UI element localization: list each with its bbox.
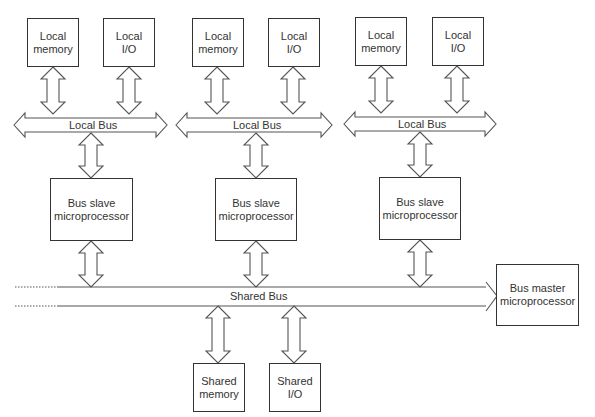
bus-master-box: Bus master microprocessor bbox=[496, 264, 579, 326]
local-memory-label: Local memory bbox=[28, 30, 78, 56]
local-memory-box-3: Local memory bbox=[355, 17, 407, 66]
shared-io-label: Shared I/O bbox=[275, 375, 315, 401]
local-io-box-3: Local I/O bbox=[432, 17, 484, 66]
arrow-shared-io bbox=[282, 306, 306, 363]
local-io-box-2: Local I/O bbox=[268, 18, 320, 67]
arrow-bus2-slave bbox=[244, 133, 268, 178]
shared-io-box: Shared I/O bbox=[269, 363, 321, 412]
shared-bus-label: Shared Bus bbox=[230, 290, 287, 302]
bus-slave-label: Bus slave microprocessor bbox=[383, 196, 458, 222]
bus-master-label: Bus master microprocessor bbox=[500, 282, 575, 308]
local-io-label: Local I/O bbox=[443, 29, 473, 55]
arrow-slave2-shared bbox=[244, 241, 268, 287]
local-io-box-1: Local I/O bbox=[103, 18, 155, 67]
arrow-io1-bus bbox=[117, 67, 141, 114]
shared-memory-box: Shared memory bbox=[193, 363, 245, 412]
bus-slave-box-3: Bus slave microprocessor bbox=[379, 177, 461, 240]
bus-slave-box-1: Bus slave microprocessor bbox=[50, 178, 133, 241]
arrow-shared-memory bbox=[206, 306, 230, 363]
arrow-bus3-slave bbox=[408, 132, 432, 177]
shared-memory-label: Shared memory bbox=[196, 375, 242, 401]
arrow-mem3-bus bbox=[369, 66, 393, 113]
local-memory-box-1: Local memory bbox=[27, 18, 79, 67]
bus-slave-box-2: Bus slave microprocessor bbox=[215, 178, 297, 241]
local-bus-label-2: Local Bus bbox=[233, 119, 281, 131]
local-io-label: Local I/O bbox=[279, 30, 309, 56]
arrow-slave3-shared bbox=[408, 240, 432, 287]
arrow-mem2-bus bbox=[205, 67, 229, 114]
arrow-slave1-shared bbox=[79, 241, 103, 287]
local-bus-label-1: Local Bus bbox=[69, 119, 117, 131]
arrow-mem1-bus bbox=[41, 67, 65, 114]
local-memory-label: Local memory bbox=[193, 30, 243, 56]
local-io-label: Local I/O bbox=[114, 30, 144, 56]
bus-slave-label: Bus slave microprocessor bbox=[54, 197, 129, 223]
local-memory-label: Local memory bbox=[356, 29, 406, 55]
arrow-bus1-slave bbox=[79, 133, 103, 178]
arrow-io2-bus bbox=[281, 67, 305, 114]
arrow-io3-bus bbox=[445, 66, 469, 113]
bus-slave-label: Bus slave microprocessor bbox=[219, 197, 294, 223]
local-bus-label-3: Local Bus bbox=[398, 118, 446, 130]
local-memory-box-2: Local memory bbox=[192, 18, 244, 67]
